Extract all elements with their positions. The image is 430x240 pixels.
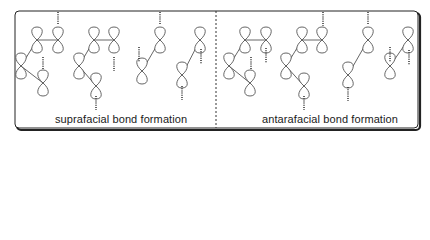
suprafacial-label: suprafacial bond formation <box>55 113 187 125</box>
antarafacial-label: antarafacial bond formation <box>262 113 398 125</box>
